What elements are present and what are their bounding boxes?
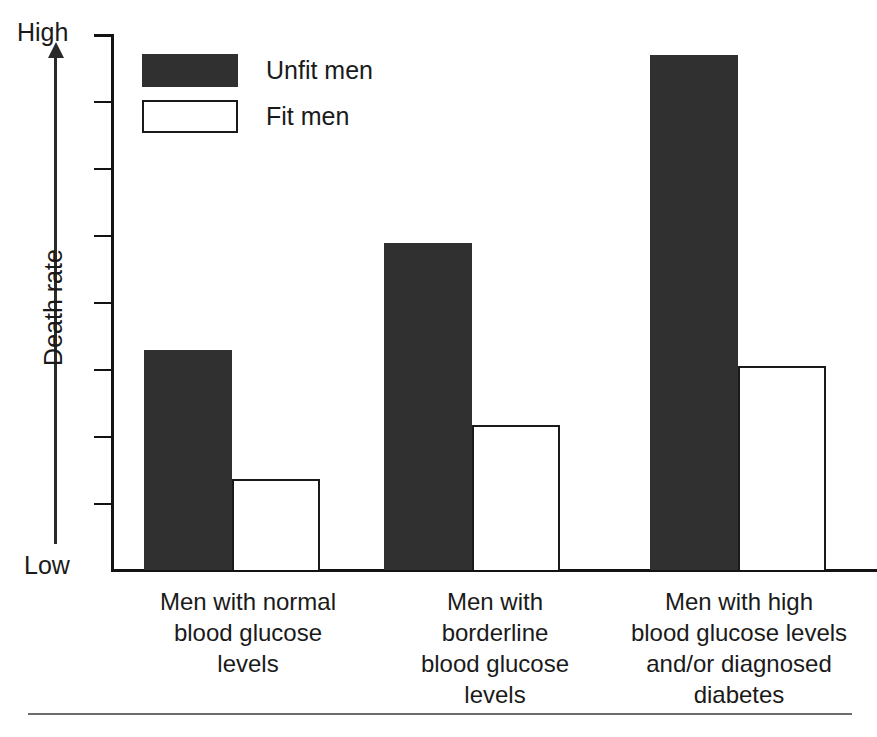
bar-fit-group-1 [472, 425, 560, 570]
bar-fit-group-2 [738, 366, 826, 570]
footer-divider [28, 713, 852, 715]
bar-chart-figure: Death rate High Low Unfit menFit men Men… [0, 0, 877, 737]
legend-label: Fit men [266, 104, 349, 129]
category-label-line: Men with [372, 586, 618, 617]
x-axis-category-label-0: Men with normalblood glucoselevels [110, 586, 386, 679]
legend-item: Unfit men [142, 47, 373, 93]
category-label-line: blood glucose levels [600, 617, 877, 648]
legend-swatch-fit [142, 100, 238, 133]
y-axis-title: Death rate [41, 208, 66, 408]
category-label-line: diabetes [600, 679, 877, 710]
y-axis-tick [94, 503, 112, 505]
category-label-line: and/or diagnosed [600, 648, 877, 679]
y-axis-tick [94, 101, 112, 103]
bar-unfit-group-0 [144, 350, 232, 570]
y-axis-tick [94, 168, 112, 170]
category-label-line: Men with normal [110, 586, 386, 617]
y-axis-tick [94, 369, 112, 371]
y-axis-high-label: High [17, 20, 68, 45]
legend: Unfit menFit men [142, 47, 373, 139]
y-axis-tick [94, 302, 112, 304]
legend-swatch-unfit [142, 54, 238, 87]
category-label-line: levels [110, 648, 386, 679]
category-label-line: blood glucose [372, 648, 618, 679]
y-axis-low-label: Low [24, 553, 70, 578]
legend-label: Unfit men [266, 58, 373, 83]
category-label-line: levels [372, 679, 618, 710]
legend-item: Fit men [142, 93, 373, 139]
x-axis-line [111, 569, 877, 572]
y-axis-tick [94, 436, 112, 438]
y-axis-top-cap-tick [94, 34, 112, 37]
category-label-line: Men with high [600, 586, 877, 617]
x-axis-category-label-2: Men with highblood glucose levelsand/or … [600, 586, 877, 710]
x-axis-category-label-1: Men withborderlineblood glucoselevels [372, 586, 618, 710]
category-label-line: blood glucose [110, 617, 386, 648]
bar-unfit-group-1 [384, 243, 472, 570]
bar-fit-group-0 [232, 479, 320, 570]
bar-unfit-group-2 [650, 55, 738, 570]
y-axis-tick [94, 235, 112, 237]
category-label-line: borderline [372, 617, 618, 648]
